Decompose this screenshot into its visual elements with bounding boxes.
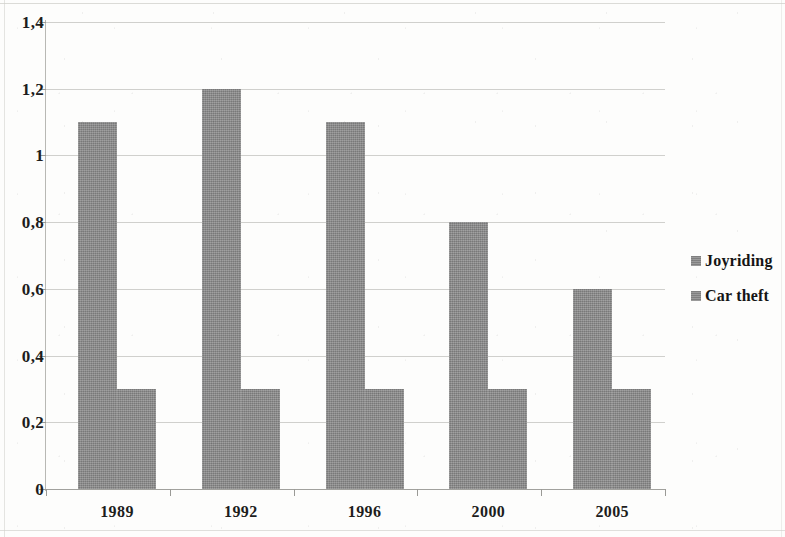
bar xyxy=(573,289,612,489)
bar xyxy=(488,389,527,489)
x-tick-mark xyxy=(541,489,542,496)
x-tick-mark xyxy=(170,489,171,496)
gridline xyxy=(46,89,665,90)
legend-item[interactable]: Car theft xyxy=(691,278,785,313)
bar xyxy=(449,222,488,489)
bar xyxy=(365,389,404,489)
bar xyxy=(202,89,241,489)
legend-swatch-joyriding xyxy=(691,256,701,266)
bar xyxy=(241,389,280,489)
bar xyxy=(117,389,156,489)
legend-item-label: Car theft xyxy=(705,287,769,305)
y-axis-tick-label: 0,4 xyxy=(0,347,44,364)
y-axis-tick-label: 1,4 xyxy=(0,14,44,31)
y-axis-tick-label: 0,8 xyxy=(0,214,44,231)
axis-baseline xyxy=(46,489,665,490)
x-tick-mark xyxy=(665,489,666,496)
y-axis-tick-label: 0,2 xyxy=(0,414,44,431)
legend-item-label: Joyriding xyxy=(705,252,773,270)
x-axis-tick-label: 2005 xyxy=(552,504,672,520)
bar xyxy=(612,389,651,489)
bar xyxy=(78,122,117,489)
legend-item[interactable]: Joyriding xyxy=(691,243,785,278)
y-axis-tick-label: 1,2 xyxy=(0,80,44,97)
y-axis-tick-label: 0,6 xyxy=(0,280,44,297)
bar xyxy=(326,122,365,489)
plot-area xyxy=(46,22,665,489)
bar-chart: 00,20,40,60,811,21,4 1989199219962000200… xyxy=(0,0,785,537)
gridline xyxy=(46,22,665,23)
x-axis-tick-label: 1989 xyxy=(57,504,177,520)
x-axis-tick-label: 2000 xyxy=(428,504,548,520)
legend-swatch-car-theft xyxy=(691,291,701,301)
x-tick-mark xyxy=(46,489,47,496)
x-tick-mark xyxy=(294,489,295,496)
x-axis-tick-label: 1992 xyxy=(181,504,301,520)
x-axis-tick-label: 1996 xyxy=(305,504,425,520)
scanned-page: 00,20,40,60,811,21,4 1989199219962000200… xyxy=(0,0,785,537)
y-axis-tick-label: 1 xyxy=(0,147,44,164)
y-axis-tick-label: 0 xyxy=(0,481,44,498)
x-tick-mark xyxy=(417,489,418,496)
chart-legend: JoyridingCar theft xyxy=(691,243,785,313)
